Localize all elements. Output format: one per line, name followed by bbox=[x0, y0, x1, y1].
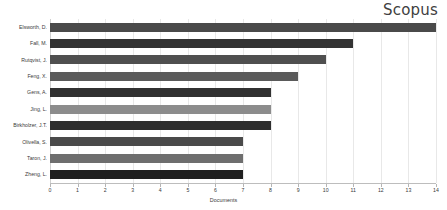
bar bbox=[50, 105, 271, 114]
category-label: Zheng, L. bbox=[0, 171, 47, 177]
x-axis-label: Documents bbox=[0, 197, 447, 203]
x-tick-label: 9 bbox=[288, 187, 308, 193]
x-tick-label: 4 bbox=[150, 187, 170, 193]
category-label: Taron, J. bbox=[0, 155, 47, 161]
bar-row: Rutqvist, J. bbox=[0, 52, 447, 68]
x-tick-label: 8 bbox=[261, 187, 281, 193]
x-tick-label: 7 bbox=[233, 187, 253, 193]
bar-row: Zheng, L. bbox=[0, 167, 447, 183]
chart-title: Scopus bbox=[383, 1, 438, 19]
x-tick-label: 13 bbox=[398, 187, 418, 193]
x-tick-label: 12 bbox=[371, 187, 391, 193]
bar bbox=[50, 154, 243, 163]
x-tick-label: 1 bbox=[68, 187, 88, 193]
bar bbox=[50, 170, 243, 179]
bar-row: Birkholzer, J.T. bbox=[0, 117, 447, 133]
x-tick-label: 5 bbox=[178, 187, 198, 193]
bar-row: Gens, A. bbox=[0, 85, 447, 101]
x-tick-label: 10 bbox=[316, 187, 336, 193]
x-tick-label: 11 bbox=[343, 187, 363, 193]
bar-row: Olivella, S. bbox=[0, 134, 447, 150]
category-label: Rutqvist, J. bbox=[0, 57, 47, 63]
bar bbox=[50, 88, 271, 97]
category-label: Olivella, S. bbox=[0, 139, 47, 145]
bar bbox=[50, 39, 353, 48]
category-label: Jing, L. bbox=[0, 106, 47, 112]
bar bbox=[50, 121, 271, 130]
x-tick-label: 14 bbox=[426, 187, 446, 193]
x-tick-label: 0 bbox=[40, 187, 60, 193]
category-label: Gens, A. bbox=[0, 89, 47, 95]
bar-row: Fall, M. bbox=[0, 35, 447, 51]
bar-row: Feng, X. bbox=[0, 68, 447, 84]
bar bbox=[50, 72, 298, 81]
bar bbox=[50, 23, 436, 32]
category-label: Fall, M. bbox=[0, 40, 47, 46]
x-tick-label: 2 bbox=[95, 187, 115, 193]
category-label: Elsworth, D. bbox=[0, 24, 47, 30]
bar bbox=[50, 55, 326, 64]
bar bbox=[50, 137, 243, 146]
bar-row: Taron, J. bbox=[0, 150, 447, 166]
category-label: Feng, X. bbox=[0, 73, 47, 79]
bar-row: Elsworth, D. bbox=[0, 19, 447, 35]
scopus-bar-chart: Scopus Elsworth, D.Fall, M.Rutqvist, J.F… bbox=[0, 0, 447, 210]
category-label: Birkholzer, J.T. bbox=[0, 122, 47, 128]
x-tick-label: 6 bbox=[205, 187, 225, 193]
bar-row: Jing, L. bbox=[0, 101, 447, 117]
x-tick-label: 3 bbox=[123, 187, 143, 193]
